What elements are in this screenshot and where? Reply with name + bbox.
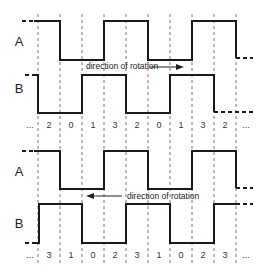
svg-text:0: 0 — [68, 120, 73, 130]
top-section: A direction of rotation B ... 2 0 1 3 2 … — [15, 21, 253, 130]
svg-text:1: 1 — [90, 120, 95, 130]
signal-b-label: B — [15, 216, 24, 231]
svg-text:1: 1 — [156, 250, 161, 260]
svg-text:2: 2 — [200, 250, 205, 260]
grid-lines — [38, 14, 236, 266]
signal-a-waveform — [34, 151, 236, 189]
svg-text:...: ... — [242, 250, 250, 260]
svg-text:3: 3 — [112, 120, 117, 130]
signal-b-label: B — [15, 81, 24, 96]
svg-text:3: 3 — [200, 120, 205, 130]
direction-label: direction of rotation — [86, 61, 159, 71]
svg-text:...: ... — [26, 120, 34, 130]
svg-text:...: ... — [26, 250, 34, 260]
svg-text:0: 0 — [178, 250, 183, 260]
signal-a-waveform — [34, 21, 236, 60]
svg-text:2: 2 — [134, 120, 139, 130]
bottom-section: A direction of rotation B ... 3 1 0 2 3 … — [15, 151, 253, 260]
svg-text:1: 1 — [68, 250, 73, 260]
signal-b-waveform — [34, 75, 214, 113]
quadrature-diagram: A direction of rotation B ... 2 0 1 3 2 … — [0, 0, 271, 272]
svg-text:0: 0 — [156, 120, 161, 130]
signal-a-label: A — [15, 34, 24, 49]
svg-text:2: 2 — [46, 120, 51, 130]
svg-text:3: 3 — [46, 250, 51, 260]
signal-b-waveform — [34, 204, 236, 243]
svg-text:3: 3 — [222, 250, 227, 260]
svg-text:3: 3 — [134, 250, 139, 260]
svg-text:1: 1 — [178, 120, 183, 130]
svg-text:2: 2 — [112, 250, 117, 260]
svg-text:0: 0 — [90, 250, 95, 260]
arrow-left-icon — [86, 193, 122, 199]
signal-a-label: A — [15, 164, 24, 179]
direction-label: direction of rotation — [127, 191, 200, 201]
svg-text:2: 2 — [222, 120, 227, 130]
svg-text:...: ... — [242, 120, 250, 130]
